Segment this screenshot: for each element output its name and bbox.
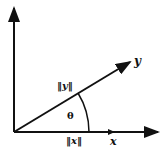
- angle-arc: [78, 93, 89, 132]
- diagram-canvas: [0, 0, 168, 151]
- y-vector: [14, 62, 130, 132]
- angle-theta-label: θ: [67, 111, 74, 121]
- x-vector-label: x: [110, 136, 117, 147]
- y-norm-label: ‖y‖: [57, 81, 73, 91]
- x-norm-label: ‖x‖: [66, 136, 82, 146]
- y-vector-label: y: [134, 55, 141, 67]
